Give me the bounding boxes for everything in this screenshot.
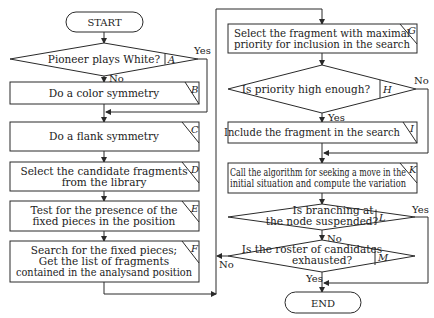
node-letter-a: A xyxy=(167,54,175,65)
end-label: END xyxy=(311,298,335,309)
process-e-text-line2: fixed pieces in the position xyxy=(33,215,176,227)
process-f: Search for the fixed pieces; Get the lis… xyxy=(10,241,199,282)
process-k: Call the algorithm for seeking a move in… xyxy=(228,163,417,193)
decision-l: Is branching at the node suspended? L xyxy=(228,204,415,230)
decision-m: Is the roster of candidates exhausted? M xyxy=(228,240,415,272)
end-terminal: END xyxy=(285,292,361,313)
decision-m-text-line2: exhausted? xyxy=(292,254,352,266)
process-d-text-line2: from the library xyxy=(62,176,147,188)
decision-a: Pioneer plays White? A xyxy=(10,43,198,76)
decision-h-text: Is priority high enough? xyxy=(242,83,371,95)
label-a-yes: Yes xyxy=(193,45,211,56)
process-g: Select the fragment with maximal priorit… xyxy=(228,24,417,53)
start-terminal: START xyxy=(66,12,143,32)
node-letter-f: F xyxy=(190,243,199,254)
node-letter-h: H xyxy=(382,84,392,95)
label-m-no: No xyxy=(219,259,234,270)
node-letter-c: C xyxy=(191,124,199,135)
label-l-yes: Yes xyxy=(411,204,429,215)
process-f-text-line3: contained in the analysand position xyxy=(16,266,192,278)
node-letter-l: L xyxy=(378,212,386,223)
process-e: Test for the presence of the fixed piece… xyxy=(10,201,199,231)
node-letter-k: K xyxy=(408,164,417,175)
label-h-yes: Yes xyxy=(327,112,345,123)
process-k-text-line2: initial situation and compute the variat… xyxy=(230,177,406,189)
start-label: START xyxy=(87,17,122,28)
label-h-no: No xyxy=(414,75,429,86)
node-letter-e: E xyxy=(190,203,199,214)
decision-h: Is priority high enough? H xyxy=(228,65,416,113)
connector-f-loop xyxy=(104,282,216,294)
flowchart: START Pioneer plays White? A Yes No Do a… xyxy=(0,0,434,318)
label-m-yes: Yes xyxy=(305,273,323,284)
process-i-text: Include the fragment in the search xyxy=(224,126,400,138)
process-b-text: Do a color symmetry xyxy=(49,87,160,99)
process-c-text: Do a flank symmetry xyxy=(49,130,159,142)
decision-a-text: Pioneer plays White? xyxy=(48,53,161,65)
node-letter-b: B xyxy=(190,84,198,95)
process-d: Select the candidate fragments from the … xyxy=(10,162,199,191)
process-i: Include the fragment in the search I xyxy=(224,122,417,143)
process-c: Do a flank symmetry C xyxy=(10,122,199,151)
decision-l-text-line2: the node suspended? xyxy=(266,215,379,227)
node-letter-g: G xyxy=(408,25,416,36)
process-g-text-line2: priority for inclusion in the search xyxy=(234,38,410,50)
node-letter-d: D xyxy=(190,164,199,175)
process-b: Do a color symmetry B xyxy=(10,82,199,104)
node-letter-m: M xyxy=(377,252,389,263)
